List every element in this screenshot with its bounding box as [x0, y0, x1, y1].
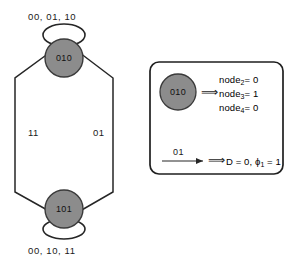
legend-state-circle-label: 010 — [165, 88, 191, 97]
state-diagram-graphics — [0, 0, 287, 270]
legend-node-name-3: node — [219, 102, 241, 113]
legend-state-implies-icon: ⟹ — [201, 86, 218, 98]
legend-node-eq-3: = 0 — [245, 102, 259, 113]
legend-node-line-3: node4= 0 — [219, 102, 258, 114]
diagram-canvas: 00, 01, 10 010 101 00, 10, 11 11 01 010 … — [0, 0, 287, 270]
legend-node-name-2: node — [219, 88, 241, 99]
state-node-top-label: 010 — [51, 54, 77, 63]
transition-edge-right-label: 01 — [93, 128, 105, 138]
transition-edge-left-label: 11 — [28, 128, 39, 138]
legend-edge-implies-icon: ⟹ — [208, 154, 225, 166]
legend-edge-result: D = 0, ϕ1 = 1 — [226, 156, 281, 168]
legend-node-line-1: node2= 0 — [219, 74, 258, 86]
legend-node-line-2: node3= 1 — [219, 88, 258, 100]
legend-node-name-1: node — [219, 74, 241, 85]
legend-node-eq-2: = 1 — [245, 88, 259, 99]
self-loop-top-label: 00, 01, 10 — [28, 12, 76, 22]
legend-edge-result-suffix: = 1 — [264, 156, 281, 167]
legend-node-eq-1: = 0 — [245, 74, 259, 85]
state-node-bottom-label: 101 — [51, 205, 77, 214]
self-loop-bottom-label: 00, 10, 11 — [28, 246, 76, 256]
legend-edge-result-prefix: D = 0, — [226, 156, 255, 167]
legend-arrow-label: 01 — [173, 148, 184, 157]
